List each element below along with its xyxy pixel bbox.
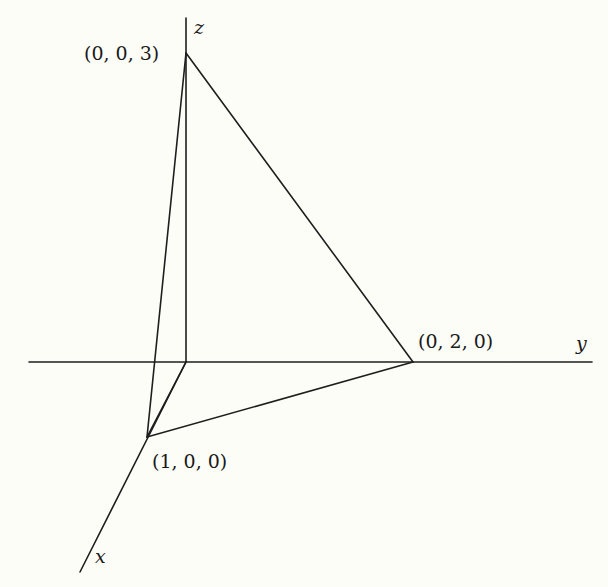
- edge-p-z-p-y: [186, 53, 413, 362]
- edge-p-z-p-x: [147, 53, 186, 437]
- y-axis-label: y: [575, 332, 587, 354]
- z-axis-label: z: [193, 16, 205, 38]
- point-label-0-0-3: (0, 0, 3): [84, 42, 159, 64]
- tetrahedron-diagram: x y z (0, 0, 3) (0, 2, 0) (1, 0, 0): [0, 0, 608, 587]
- point-label-0-2-0: (0, 2, 0): [418, 330, 493, 352]
- x-axis-label: x: [95, 545, 106, 567]
- edge-p-x-p-y: [147, 362, 413, 437]
- axes: x y z: [29, 16, 592, 572]
- point-label-1-0-0: (1, 0, 0): [152, 450, 227, 472]
- tetrahedron-edges: [147, 53, 413, 437]
- point-labels: (0, 0, 3) (0, 2, 0) (1, 0, 0): [84, 42, 493, 472]
